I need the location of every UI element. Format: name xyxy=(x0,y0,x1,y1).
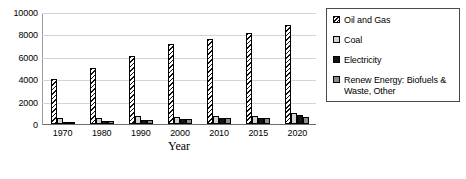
legend-item: Oil and Gas xyxy=(333,15,455,26)
bar xyxy=(168,44,174,124)
plot-area xyxy=(42,13,316,125)
y-axis-tick-label: 2000 xyxy=(0,99,38,108)
bar-group xyxy=(277,13,316,124)
legend-swatch-icon xyxy=(333,16,340,23)
bar-group xyxy=(121,13,160,124)
x-axis-tick-label: 2020 xyxy=(278,128,317,138)
bar xyxy=(207,39,213,124)
y-axis-tick-label: 8000 xyxy=(0,31,38,40)
legend-item-label: Oil and Gas xyxy=(344,15,390,26)
bar xyxy=(147,120,153,124)
x-axis-tick-label: 2015 xyxy=(239,128,278,138)
bar xyxy=(285,25,291,124)
bar xyxy=(90,68,96,124)
legend-swatch-icon xyxy=(333,76,340,83)
legend-item-label: Coal xyxy=(344,35,362,46)
bar xyxy=(51,79,57,124)
bar-group xyxy=(160,13,199,124)
x-axis-tick-label: 2010 xyxy=(200,128,239,138)
bar-group xyxy=(82,13,121,124)
y-axis-tick-label: 4000 xyxy=(0,76,38,85)
bar xyxy=(225,118,231,124)
legend-item: Coal xyxy=(333,35,455,46)
x-axis-title: Year xyxy=(42,140,316,153)
y-axis-tick-label: 6000 xyxy=(0,54,38,63)
legend-item: Renew Energy: Biofuels & Waste, Other xyxy=(333,75,455,97)
bar xyxy=(264,118,270,124)
legend-item: Electricity xyxy=(333,55,455,66)
bar-groups xyxy=(43,13,316,124)
bar xyxy=(246,33,252,124)
bar xyxy=(303,117,309,124)
y-axis-tick-label: 0 xyxy=(0,121,38,130)
x-axis-tick-label: 2000 xyxy=(160,128,199,138)
bar-group xyxy=(238,13,277,124)
bar xyxy=(129,56,135,124)
legend-item-label: Renew Energy: Biofuels & Waste, Other xyxy=(344,75,446,97)
x-axis-tick-label: 1980 xyxy=(82,128,121,138)
bar xyxy=(186,119,192,124)
x-axis-labels: 1970198019902000201020152020 xyxy=(43,128,317,138)
bar-chart: 0200040006000800010000 19701980199020002… xyxy=(0,0,466,179)
bar xyxy=(108,121,114,124)
legend-swatch-icon xyxy=(333,56,340,63)
legend-swatch-icon xyxy=(333,36,340,43)
legend-item-label: Electricity xyxy=(344,55,381,66)
y-axis-tick-label: 10000 xyxy=(0,9,38,18)
bar xyxy=(69,122,75,124)
chart-legend: Oil and GasCoalElectricityRenew Energy: … xyxy=(326,8,460,102)
bar-group xyxy=(199,13,238,124)
y-axis: 0200040006000800010000 xyxy=(0,13,38,125)
bar-group xyxy=(43,13,82,124)
x-axis-tick-label: 1970 xyxy=(43,128,82,138)
x-axis-tick-label: 1990 xyxy=(121,128,160,138)
